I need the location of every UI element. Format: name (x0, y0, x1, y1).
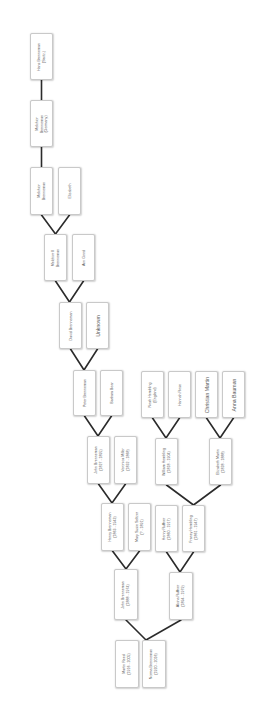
person-label: MelchiorBrenneman (37, 182, 46, 201)
person-box-elizabeth-martin: Elizabeth Martin(1828 - 1888) (209, 438, 232, 485)
person-line1: Elizabeth Martin (216, 449, 221, 475)
person-line1: Anna Bauman (231, 378, 237, 411)
person-line1: Peter Brenneman (82, 379, 87, 407)
connector-line (126, 551, 140, 569)
person-line2: Brenneman (56, 248, 61, 267)
person-label: Elizabeth (67, 184, 72, 199)
person-line1: Melchior (37, 182, 42, 201)
person-box-anna: Anna Bauman (222, 371, 245, 418)
person-box-elizabeth: Elizabeth (58, 167, 81, 215)
person-label: David Brenneman (68, 311, 73, 340)
connector-line (85, 416, 99, 436)
person-label: Henry Ruffner(1860 - 1917) (162, 517, 171, 539)
person-line2: (1916 - 2005) (127, 653, 132, 675)
person-line1: Alcina Ruffner (176, 585, 181, 608)
connector-line (84, 349, 98, 370)
connector-line (166, 418, 180, 438)
person-line1: John Brenneman (121, 581, 126, 608)
person-box-henry-ruffner: Henry Ruffner(1860 - 1917) (155, 505, 178, 552)
person-line1: Mary Susie Seltzer (135, 512, 140, 542)
person-line1: John Brenneman (94, 446, 99, 473)
connector-line (98, 416, 112, 436)
person-line2: (? - 1891) (140, 512, 145, 542)
person-line2: (1818 - 1904) (167, 448, 172, 476)
person-line1: Hans Brenneman (37, 43, 42, 71)
person-box-john-1888: John Brenneman(1888 - 1974) (114, 569, 138, 620)
person-line1: Hannah Rose (177, 384, 182, 406)
person-line1: Barbara Bear (109, 382, 114, 403)
person-line1: Unknown (95, 315, 101, 337)
person-label: Ann Good (81, 249, 86, 265)
person-box-henry-b: Henry Brenneman(1863 - 1943) (101, 503, 124, 551)
person-box-franey: Franey Hembling(1861 - 1947) (182, 505, 205, 552)
person-label: John Brenneman(1827 - 1895) (94, 446, 103, 473)
person-line2: (1863 - 1943) (113, 512, 118, 541)
person-line1: David Brenneman (68, 311, 73, 340)
person-label: John Brenneman(1888 - 1974) (121, 581, 130, 608)
person-line2: (1827 - 1895) (99, 446, 104, 473)
connector-line (56, 281, 70, 302)
person-label: Melchior IIBrenneman (51, 248, 60, 267)
person-line3: (Germany) (44, 114, 49, 133)
connector-line (153, 418, 167, 438)
connector-line (113, 551, 127, 569)
person-label: Peter Brenneman (82, 379, 87, 407)
connector-line (207, 418, 221, 438)
person-label: Mary Susie Seltzer(? - 1891) (135, 512, 144, 542)
connector-line (126, 620, 146, 640)
person-line2: (Switz.) (42, 43, 47, 71)
person-box-mary-susie: Mary Susie Seltzer(? - 1891) (128, 503, 151, 551)
person-line2: (1888 - 1974) (126, 581, 131, 608)
person-box-melchior-ii: Melchior IIBrenneman (44, 234, 67, 281)
connector-line (167, 552, 181, 572)
connector-line (112, 484, 126, 503)
person-label: Hans Brenneman(Switz.) (37, 43, 46, 71)
person-box-william: William Hembling(1818 - 1904) (155, 438, 178, 485)
person-box-unknown: Unknown (86, 302, 109, 349)
connector-line (194, 485, 221, 505)
person-line2: (1828 - 1888) (221, 449, 226, 475)
connector-line (56, 215, 70, 234)
person-label: Elizabeth Martin(1828 - 1888) (216, 449, 225, 475)
person-box-noah: Noah Hembling(England) (141, 371, 164, 418)
person-label: Martin Reed(1916 - 2005) (122, 653, 131, 675)
connector-line (220, 418, 234, 438)
connector-line (180, 552, 194, 572)
person-label: Norma Brenneman(1920 - 2016) (149, 649, 158, 679)
person-label: Unknown (95, 315, 101, 337)
person-line2: (England) (153, 382, 158, 407)
connector-line (99, 484, 113, 503)
person-line2: Brenneman (39, 114, 44, 133)
person-line1: Melchior (35, 114, 40, 133)
person-line1: Melchior II (51, 248, 56, 267)
person-label: MelchiorBrenneman(Germany) (35, 114, 49, 133)
person-line2: (1861 - 1947) (194, 515, 199, 542)
person-line2: (1860 - 1917) (167, 517, 172, 539)
person-line1: William Hembling (162, 448, 167, 476)
person-line1: Henry Ruffner (162, 517, 167, 539)
person-line2: (1894 - 1979) (181, 585, 186, 608)
person-box-christian: Christian Martin (195, 371, 218, 418)
person-label: Anna Bauman (231, 378, 237, 411)
person-line1: Henry Brenneman (108, 512, 113, 541)
person-box-john-1827: John Brenneman(1827 - 1895) (87, 436, 110, 484)
person-line1: Elizabeth (67, 184, 72, 199)
person-line1: Christian Martin (204, 376, 210, 412)
person-label: Veronica Miller(1832 - 1868) (121, 448, 130, 472)
person-box-melchior-germany: MelchiorBrenneman(Germany) (30, 100, 53, 147)
person-box-david: David Brenneman (59, 302, 82, 349)
person-label: Franey Hembling(1861 - 1947) (189, 515, 198, 542)
person-box-melchior: MelchiorBrenneman (30, 167, 53, 215)
person-box-hans: Hans Brenneman(Switz.) (30, 33, 53, 80)
person-label: Alcina Ruffner(1894 - 1979) (176, 585, 185, 608)
person-box-norma: Norma Brenneman(1920 - 2016) (142, 640, 166, 688)
person-line1: Veronica Miller (121, 448, 126, 472)
connector-line (146, 620, 181, 640)
person-line2: (1832 - 1868) (126, 448, 131, 472)
person-box-ann-good: Ann Good (72, 234, 95, 281)
connector-line (71, 349, 85, 370)
person-line2: Brenneman (42, 182, 47, 201)
family-tree-diagram: Hans Brenneman(Switz.)MelchiorBrenneman(… (0, 0, 267, 725)
person-label: Hannah Rose (177, 384, 182, 406)
connector-line (167, 485, 194, 505)
